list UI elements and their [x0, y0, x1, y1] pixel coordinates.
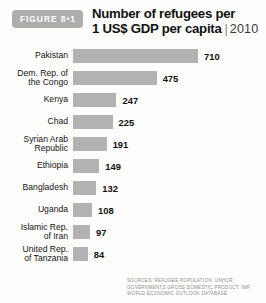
bar-value-label: 97 [90, 227, 106, 238]
bar-value-label: 225 [113, 117, 135, 128]
page-title-line-2: 1 US$ GDP per capita|2010 [92, 22, 260, 37]
bar-area: 97 [73, 221, 266, 243]
bar-value-label: 247 [116, 95, 138, 106]
bar-category-label: United Rep. of Tanzania [0, 245, 73, 264]
bar-value-label: 475 [157, 73, 179, 84]
bar-chart: Pakistan710Dem. Rep. of the Congo475Keny… [0, 45, 266, 265]
bar-value-label: 132 [96, 183, 118, 194]
bar-area: 247 [73, 89, 266, 111]
bar-area: 475 [73, 67, 266, 89]
source-line-2: GOVERNMENTS GROSS DOMESTIC PRODUCT: IMF, [127, 285, 259, 291]
bar-category-label: Kenya [0, 95, 73, 104]
bar [73, 203, 92, 217]
bar [73, 93, 116, 107]
chart-row: United Rep. of Tanzania84 [0, 243, 266, 265]
bar [73, 181, 96, 195]
bar-area: 84 [73, 243, 266, 265]
chart-row: Chad225 [0, 111, 266, 133]
bar-area: 149 [73, 155, 266, 177]
bar [73, 71, 157, 85]
figure-title-block: Number of refugees per 1 US$ GDP per cap… [92, 6, 260, 36]
bar [73, 247, 88, 261]
bar-category-label: Ethiopia [0, 161, 73, 170]
bar-category-label: Syrian Arab Republic [0, 135, 73, 154]
bar-value-label: 149 [99, 161, 121, 172]
bar-category-label: Bangladesh [0, 183, 73, 192]
bar-category-label: Islamic Rep. of Iran [0, 223, 73, 242]
chart-row: Uganda108 [0, 199, 266, 221]
bar-value-label: 191 [107, 139, 129, 150]
figure-number-badge: FIGURE 8•1 [12, 10, 83, 28]
chart-row: Pakistan710 [0, 45, 266, 67]
page-title-text-1: Number of refugees per [92, 6, 235, 21]
bar-area: 132 [73, 177, 266, 199]
bar-value-label: 108 [92, 205, 114, 216]
bar-value-label: 710 [198, 51, 220, 62]
bar [73, 159, 99, 173]
bar-category-label: Dem. Rep. of the Congo [0, 69, 73, 88]
bar-area: 710 [73, 45, 266, 67]
source-note: SOURCES: REFUGEE POPULATION: UNHCR; GOVE… [127, 278, 259, 297]
bar [73, 225, 90, 239]
page-title-text-2: 1 US$ GDP per capita [92, 21, 222, 36]
chart-row: Syrian Arab Republic191 [0, 133, 266, 155]
source-line-3: WORLD ECONOMIC OUTLOOK DATABASE [127, 291, 259, 297]
bar [73, 49, 198, 63]
figure-header: FIGURE 8•1 Number of refugees per 1 US$ … [0, 0, 266, 36]
bar [73, 137, 107, 151]
bar-area: 225 [73, 111, 266, 133]
chart-row: Islamic Rep. of Iran97 [0, 221, 266, 243]
chart-row: Dem. Rep. of the Congo475 [0, 67, 266, 89]
chart-row: Bangladesh132 [0, 177, 266, 199]
chart-row: Kenya247 [0, 89, 266, 111]
bar [73, 115, 113, 129]
bar-category-label: Pakistan [0, 51, 73, 60]
bar-category-label: Uganda [0, 205, 73, 214]
title-separator: | [222, 21, 230, 36]
bar-value-label: 84 [88, 249, 104, 260]
chart-row: Ethiopia149 [0, 155, 266, 177]
figure-year: 2010 [230, 22, 259, 36]
bar-category-label: Chad [0, 117, 73, 126]
bar-area: 191 [73, 133, 266, 155]
page-title-line-1: Number of refugees per [92, 7, 260, 22]
bar-area: 108 [73, 199, 266, 221]
